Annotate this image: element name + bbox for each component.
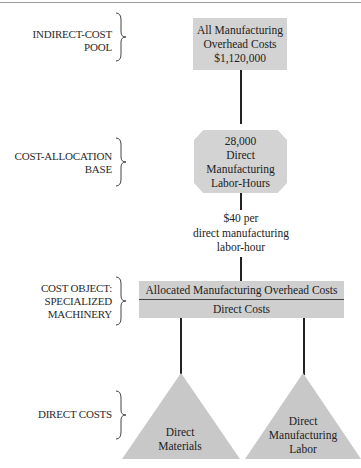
overhead-cost-pool-box: All Manufacturing Overhead Costs $1,120,… (193, 18, 287, 70)
connector-line (303, 318, 305, 375)
node-line: All Manufacturing (197, 23, 283, 37)
node-line: Manufacturing (206, 162, 274, 176)
cost-object-label: COST OBJECT: SPECIALIZED MACHINERY (10, 282, 112, 321)
label-line: COST-ALLOCATION (10, 150, 112, 163)
brace-icon (114, 276, 128, 326)
direct-materials-text: Direct Materials (140, 425, 220, 453)
node-line: 28,000 (225, 134, 257, 148)
cost-object-bar: Allocated Manufacturing Overhead Costs D… (139, 281, 344, 318)
allocation-rate-text: $40 per direct manufacturing labor-hour (170, 211, 312, 255)
connector-line (240, 257, 242, 281)
rate-line: labor-hour (170, 240, 312, 255)
label-line: SPECIALIZED (10, 295, 112, 308)
connector-line (180, 318, 182, 375)
label-line: BASE (10, 163, 112, 176)
label-line: INDIRECT-COST (20, 28, 112, 41)
rate-line: direct manufacturing (170, 226, 312, 241)
brace-icon (114, 137, 128, 187)
node-line: Overhead Costs (203, 37, 276, 51)
node-line: Materials (140, 439, 220, 453)
allocated-overhead-row: Allocated Manufacturing Overhead Costs (139, 281, 344, 299)
allocation-base-text: 28,000 Direct Manufacturing Labor-Hours (194, 130, 287, 193)
rate-line: $40 per (170, 211, 312, 226)
node-line: Manufacturing (258, 428, 348, 442)
label-line: POOL (20, 41, 112, 54)
cost-allocation-base-label: COST-ALLOCATION BASE (10, 150, 112, 176)
direct-costs-label: DIRECT COSTS (10, 408, 112, 421)
node-line: Labor (258, 442, 348, 456)
label-line: MACHINERY (10, 308, 112, 321)
connector-line (240, 70, 242, 124)
node-line: $1,120,000 (214, 51, 266, 65)
node-line: Direct (258, 414, 348, 428)
node-line: Direct (226, 148, 255, 162)
brace-icon (114, 12, 128, 62)
label-line: DIRECT COSTS (10, 408, 112, 421)
indirect-cost-pool-label: INDIRECT-COST POOL (20, 28, 112, 54)
top-border (0, 2, 361, 3)
label-line: COST OBJECT: (10, 282, 112, 295)
direct-costs-row: Direct Costs (139, 300, 344, 318)
direct-labor-text: Direct Manufacturing Labor (258, 414, 348, 456)
node-line: Direct (140, 425, 220, 439)
connector-line (240, 193, 242, 210)
node-line: Labor-Hours (211, 176, 270, 190)
